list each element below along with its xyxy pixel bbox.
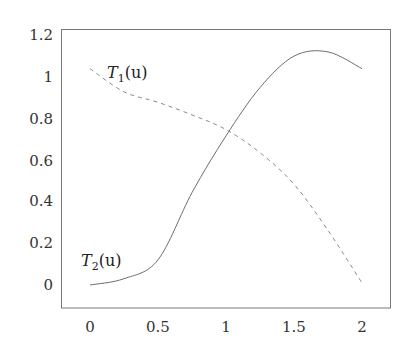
x-tick-label: 0 — [85, 318, 95, 336]
x-tick-label: 0.5 — [146, 318, 170, 336]
series-t2-solid-line — [90, 51, 362, 285]
x-tick-label: 1 — [221, 318, 231, 336]
y-tick-label: 0.2 — [29, 234, 53, 252]
y-tick-label: 1 — [43, 68, 53, 86]
series-t1-dashed-line — [90, 69, 362, 283]
x-tick-label: 2 — [357, 318, 367, 336]
y-tick-label: 0 — [43, 276, 53, 294]
y-tick-label: 1.2 — [29, 26, 53, 44]
y-axis-ticks: 1.2 1 0.8 0.6 0.4 0.2 0 — [29, 26, 53, 294]
y-tick-label: 0.6 — [29, 152, 53, 170]
y-tick-label: 0.4 — [29, 192, 53, 210]
x-axis-ticks: 0 0.5 1 1.5 2 — [85, 318, 367, 336]
chart: 1.2 1 0.8 0.6 0.4 0.2 0 0 0.5 1 1.5 2 T1… — [0, 0, 409, 358]
x-tick-label: 1.5 — [282, 318, 306, 336]
label-t1: T1(u) — [107, 63, 147, 85]
y-tick-label: 0.8 — [29, 110, 53, 128]
label-t2: T2(u) — [81, 251, 121, 273]
